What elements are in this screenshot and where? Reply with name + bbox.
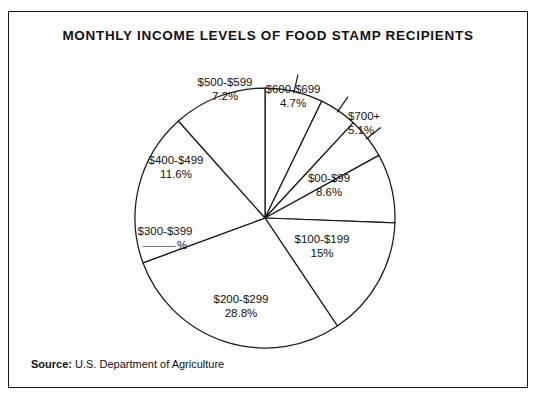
slice-label-range: $500-$599 — [198, 75, 253, 89]
slice-label-percent: 7.2% — [198, 89, 253, 103]
slice-label: $200-$29928.8% — [214, 292, 269, 320]
pie-chart-graphic — [9, 12, 529, 389]
slice-label-range: $300-$399 — [138, 224, 193, 238]
slice-label-percent: 15% — [295, 246, 350, 260]
slice-label-range: $400-$499 — [149, 153, 204, 167]
leader-line — [337, 97, 348, 113]
page-title: MONTHLY INCOME LEVELS OF FOOD STAMP RECI… — [9, 28, 527, 43]
slice-label: $300-$399% — [138, 224, 193, 252]
source-text: U.S. Department of Agriculture — [75, 358, 224, 370]
slice-label: $400-$49911.6% — [149, 153, 204, 181]
slice-label-percent: 11.6% — [149, 167, 204, 181]
slice-label: $600-$6994.7% — [266, 82, 321, 110]
slice-label-range: $600-$699 — [266, 82, 321, 96]
slice-label: $100-$19915% — [295, 232, 350, 260]
figure-frame: MONTHLY INCOME LEVELS OF FOOD STAMP RECI… — [8, 11, 528, 388]
source-note: Source: U.S. Department of Agriculture — [31, 358, 224, 370]
slice-label-percent: 4.7% — [266, 96, 321, 110]
slice-label-percent: 5.1% — [348, 123, 380, 137]
slice-label: $00-$998.6% — [308, 171, 350, 199]
blank-answer-rule[interactable] — [143, 246, 176, 247]
percent-sign: % — [177, 238, 187, 252]
slice-label-percent: 28.8% — [214, 306, 269, 320]
slice-label-range: $00-$99 — [308, 171, 350, 185]
slice-label: $700+5.1% — [348, 109, 380, 137]
slice-label-percent: % — [138, 238, 193, 252]
source-label: Source: — [31, 358, 72, 370]
pie-slice — [265, 101, 353, 218]
slice-label-percent: 8.6% — [308, 185, 350, 199]
slice-label-range: $100-$199 — [295, 232, 350, 246]
slice-label-range: $200-$299 — [214, 292, 269, 306]
slice-label-range: $700+ — [348, 109, 380, 123]
slice-label: $500-$5997.2% — [198, 75, 253, 103]
